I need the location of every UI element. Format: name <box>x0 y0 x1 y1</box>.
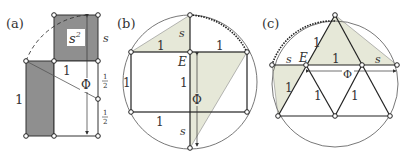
one-top-left-label: 1 <box>157 39 165 53</box>
panel-b: (b) s 1 1 E 1 1 Φ 1 s <box>117 13 257 151</box>
s-right-label: s <box>375 53 381 66</box>
phi-label: Φ <box>343 68 352 81</box>
panel-c: (c) s E 1 1 s Φ 1 1 1 <box>262 13 399 147</box>
E-label: E <box>177 55 187 69</box>
svg-text:1: 1 <box>103 109 107 117</box>
panel-c-label: (c) <box>262 16 279 31</box>
panel-a: (a) s2 s 1 1 Φ 1 2 1 2 <box>6 13 109 139</box>
svg-text:2: 2 <box>103 118 107 126</box>
dark-rectangle <box>26 61 54 136</box>
one-lower-left-label: 1 <box>285 81 293 95</box>
one-top-label: 1 <box>332 52 340 66</box>
phi-label: Φ <box>81 78 91 92</box>
E-label: E <box>298 51 308 65</box>
svg-text:2: 2 <box>103 82 107 90</box>
svg-text:1: 1 <box>103 73 107 81</box>
golden-ratio-figure: (a) s2 s 1 1 Φ 1 2 1 2 <box>0 0 414 162</box>
half-top-fraction: 1 2 <box>102 73 108 90</box>
one-mid-left-label: 1 <box>314 89 322 103</box>
one-bottom-label: 1 <box>156 115 164 129</box>
s-bottom-label: s <box>180 125 186 138</box>
white-rectangle <box>54 61 98 136</box>
s-top-label: s <box>179 27 185 40</box>
one-center-label: 1 <box>180 76 188 90</box>
one-top-right-label: 1 <box>216 39 224 53</box>
one-mid-right-label: 1 <box>351 89 359 103</box>
panel-a-label: (a) <box>6 16 24 31</box>
side-s-label: s <box>103 32 109 45</box>
left-one-label: 1 <box>15 92 23 107</box>
one-left-label: 1 <box>123 76 131 90</box>
panel-b-label: (b) <box>117 16 135 31</box>
top-one-label: 1 <box>63 64 71 78</box>
phi-label: Φ <box>192 93 202 107</box>
half-bottom-fraction: 1 2 <box>102 109 108 126</box>
one-upper-left-label: 1 <box>313 36 321 50</box>
s-left-label: s <box>286 53 292 66</box>
